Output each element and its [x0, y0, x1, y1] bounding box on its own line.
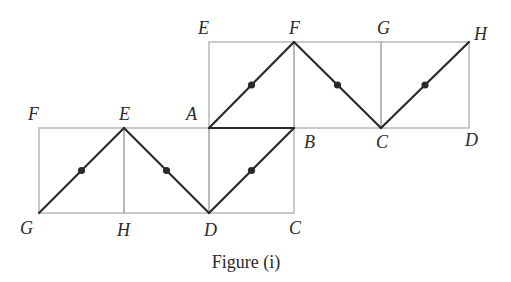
midpoint-dot-CH	[421, 81, 428, 88]
midpoint-dot-FC	[334, 81, 341, 88]
vertex-label-A: A	[185, 104, 198, 124]
vertex-label-B: B	[304, 132, 315, 152]
midpoint-dot-GE	[78, 167, 85, 174]
net-diagram: EFGHFEABCDGHDC Figure (i)	[0, 0, 511, 282]
vertex-label-F: F	[27, 104, 40, 124]
midpoint-dot-ED	[163, 167, 170, 174]
vertex-label-D: D	[464, 130, 478, 150]
vertex-label-G: G	[377, 18, 390, 38]
figure-caption: Figure (i)	[212, 252, 280, 273]
vertex-label-C: C	[376, 132, 389, 152]
vertex-label-H: H	[473, 24, 488, 44]
vertex-label-D: D	[203, 220, 217, 240]
vertex-label-E: E	[118, 104, 130, 124]
vertex-label-G: G	[20, 218, 33, 238]
vertex-label-F: F	[288, 18, 301, 38]
vertex-label-C: C	[289, 218, 302, 238]
midpoint-dot-DB	[248, 167, 255, 174]
vertex-label-H: H	[116, 220, 131, 240]
midpoint-dot-AF	[248, 81, 255, 88]
vertex-label-E: E	[197, 18, 209, 38]
